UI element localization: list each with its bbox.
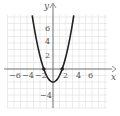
data-point	[42, 67, 46, 71]
x-tick-label: 2	[63, 71, 68, 80]
x-axis-label: x	[111, 72, 116, 82]
parabola-chart: y x −6 −4 −2 2 4 6 6 4 2 −4	[0, 0, 120, 116]
y-tick-label: 6	[45, 24, 50, 33]
y-tick-label: 2	[45, 51, 50, 60]
data-point	[60, 67, 64, 71]
grid-lines	[7, 15, 107, 108]
x-tick-label: −4	[22, 71, 34, 80]
y-axis-label: y	[43, 1, 50, 11]
y-tick-label: 4	[45, 37, 50, 46]
x-tick-label: −6	[9, 71, 21, 80]
x-tick-label: 4	[76, 71, 81, 80]
y-tick-label: −4	[40, 91, 52, 100]
x-tick-label: 6	[88, 71, 93, 80]
